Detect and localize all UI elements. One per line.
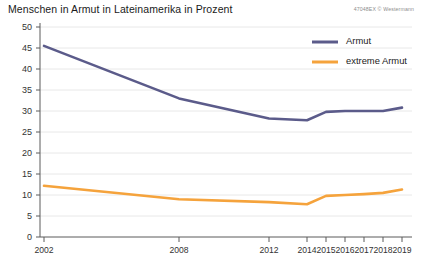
x-tick-label: 2017 <box>354 245 373 255</box>
x-tick-label: 2008 <box>169 245 188 255</box>
y-tick-label: 50 <box>22 22 32 32</box>
y-tick-label: 25 <box>22 127 32 137</box>
x-tick-label: 2002 <box>34 245 53 255</box>
y-tick-label: 10 <box>22 190 32 200</box>
y-tick-label: 15 <box>22 169 32 179</box>
y-tick-label: 35 <box>22 85 32 95</box>
chart-legend: Armutextreme Armut <box>312 35 407 66</box>
x-tick-label: 2016 <box>335 245 354 255</box>
y-tick-label: 30 <box>22 106 32 116</box>
legend-label: extreme Armut <box>346 55 407 66</box>
data-series-group <box>44 46 402 204</box>
y-tick-label: 0 <box>27 232 32 242</box>
x-tick-label: 2014 <box>297 245 316 255</box>
y-tick-label: 40 <box>22 64 32 74</box>
x-tick-label: 2012 <box>259 245 278 255</box>
y-tick-label: 5 <box>27 211 32 221</box>
x-axis: 200220082012201420152016201720182019 <box>34 237 412 255</box>
x-tick-label: 2015 <box>316 245 335 255</box>
chart-container: Menschen in Armut in Lateinamerika in Pr… <box>0 0 421 260</box>
x-tick-label: 2019 <box>392 245 411 255</box>
y-tick-label: 45 <box>22 43 32 53</box>
y-axis: 05101520253035404550 <box>22 22 40 242</box>
x-tick-label: 2018 <box>373 245 392 255</box>
y-tick-label: 20 <box>22 148 32 158</box>
line-chart-plot: 05101520253035404550 2002200820122014201… <box>0 0 421 260</box>
legend-label: Armut <box>346 35 371 46</box>
